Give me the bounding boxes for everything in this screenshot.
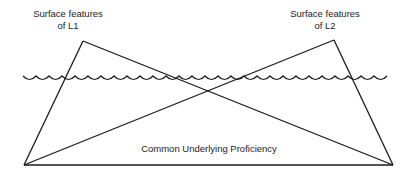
- waterline-waves: [23, 76, 387, 80]
- l2-iceberg-right-edge: [334, 40, 393, 165]
- common-underlying-proficiency-label: Common Underlying Proficiency: [141, 143, 277, 154]
- l1-iceberg-left-edge: [24, 41, 83, 165]
- l2-label-line1: Surface features: [290, 8, 360, 19]
- l1-label-line2: of L1: [57, 20, 78, 31]
- l1-label-line1: Surface features: [33, 8, 103, 19]
- l2-label-line2: of L2: [314, 20, 335, 31]
- dual-iceberg-diagram: Surface features of L1 Surface features …: [0, 0, 413, 172]
